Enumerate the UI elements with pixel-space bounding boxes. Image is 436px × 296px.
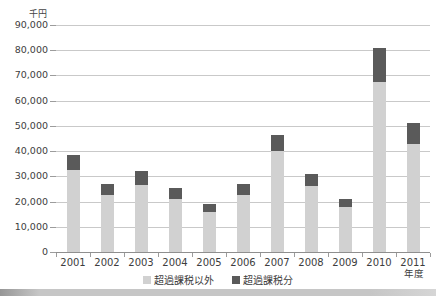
y-axis-tick: [50, 202, 56, 203]
bar-segment-2008-base: [305, 186, 318, 252]
x-axis-tick: [56, 253, 57, 257]
y-axis-tick: [50, 227, 56, 228]
x-axis-tick-label: 2011: [396, 257, 430, 268]
x-axis-tick: [294, 253, 295, 257]
gridline: [56, 25, 430, 26]
bar-segment-2006-base: [237, 195, 250, 252]
legend-swatch-dark-icon: [232, 276, 240, 284]
bar-segment-2007-base: [271, 151, 284, 252]
x-axis-tick: [124, 253, 125, 257]
scanned-chart-page: 千円 年度 超過課税以外 超過課税分 90,00080,00070,00060,…: [0, 0, 436, 296]
y-axis-tick: [50, 50, 56, 51]
x-axis-tick-label: 2010: [362, 257, 396, 268]
x-axis-tick-label: 2004: [158, 257, 192, 268]
x-axis-tick: [192, 253, 193, 257]
x-axis-tick: [158, 253, 159, 257]
legend-swatch-light-icon: [143, 276, 151, 284]
x-axis-tick: [430, 253, 431, 257]
bar-segment-2005-base: [203, 212, 216, 252]
x-axis-tick-label: 2002: [90, 257, 124, 268]
bar-segment-2010-excess: [373, 48, 386, 82]
bar-segment-2011-excess: [407, 123, 420, 144]
bar-segment-2009-base: [339, 207, 352, 252]
bar-segment-2002-excess: [101, 184, 114, 195]
y-axis-tick-label: 80,000: [0, 45, 48, 55]
x-axis-line: [56, 252, 430, 253]
bar-segment-2011-base: [407, 144, 420, 252]
x-axis-tick: [396, 253, 397, 257]
legend-item-ordinary: 超過課税以外: [143, 272, 214, 287]
legend-label: 超過課税以外: [154, 272, 214, 287]
bar-segment-2010-base: [373, 82, 386, 252]
x-axis-tick: [260, 253, 261, 257]
y-axis-tick-label: 60,000: [0, 96, 48, 106]
y-axis-tick-label: 40,000: [0, 146, 48, 156]
x-axis-tick-label: 2003: [124, 257, 158, 268]
y-axis-tick-label: 90,000: [0, 20, 48, 30]
page-scan-shadow: [0, 289, 436, 296]
x-axis-tick: [328, 253, 329, 257]
y-axis-tick: [50, 176, 56, 177]
bar-segment-2006-excess: [237, 184, 250, 195]
x-axis-tick: [90, 253, 91, 257]
legend: 超過課税以外 超過課税分: [0, 272, 436, 287]
y-axis-tick: [50, 126, 56, 127]
y-axis-tick: [50, 75, 56, 76]
bar-segment-2005-excess: [203, 204, 216, 212]
y-axis-tick: [50, 25, 56, 26]
bar-segment-2003-base: [135, 185, 148, 252]
x-axis-tick-label: 2007: [260, 257, 294, 268]
y-axis-tick: [50, 101, 56, 102]
bar-segment-2003-excess: [135, 171, 148, 185]
y-axis-tick-label: 70,000: [0, 70, 48, 80]
x-axis-tick-label: 2008: [294, 257, 328, 268]
bar-segment-2002-base: [101, 195, 114, 252]
x-axis-tick: [226, 253, 227, 257]
bar-segment-2009-excess: [339, 199, 352, 207]
bar-segment-2004-excess: [169, 188, 182, 199]
y-axis-tick-label: 10,000: [0, 222, 48, 232]
bar-segment-2008-excess: [305, 174, 318, 186]
x-axis-tick-label: 2006: [226, 257, 260, 268]
legend-item-excess: 超過課税分: [232, 272, 293, 287]
bar-segment-2004-base: [169, 199, 182, 252]
y-axis-tick-label: 20,000: [0, 197, 48, 207]
bar-segment-2001-excess: [67, 155, 80, 170]
bar-segment-2001-base: [67, 170, 80, 252]
y-axis-tick: [50, 151, 56, 152]
y-axis-tick-label: 30,000: [0, 171, 48, 181]
x-axis-tick-label: 2009: [328, 257, 362, 268]
x-axis-tick: [362, 253, 363, 257]
bar-segment-2007-excess: [271, 135, 284, 151]
y-axis-tick-label: 50,000: [0, 121, 48, 131]
legend-label: 超過課税分: [243, 272, 293, 287]
y-axis-tick-label: 0: [0, 247, 48, 257]
x-axis-tick-label: 2005: [192, 257, 226, 268]
x-axis-tick-label: 2001: [56, 257, 90, 268]
